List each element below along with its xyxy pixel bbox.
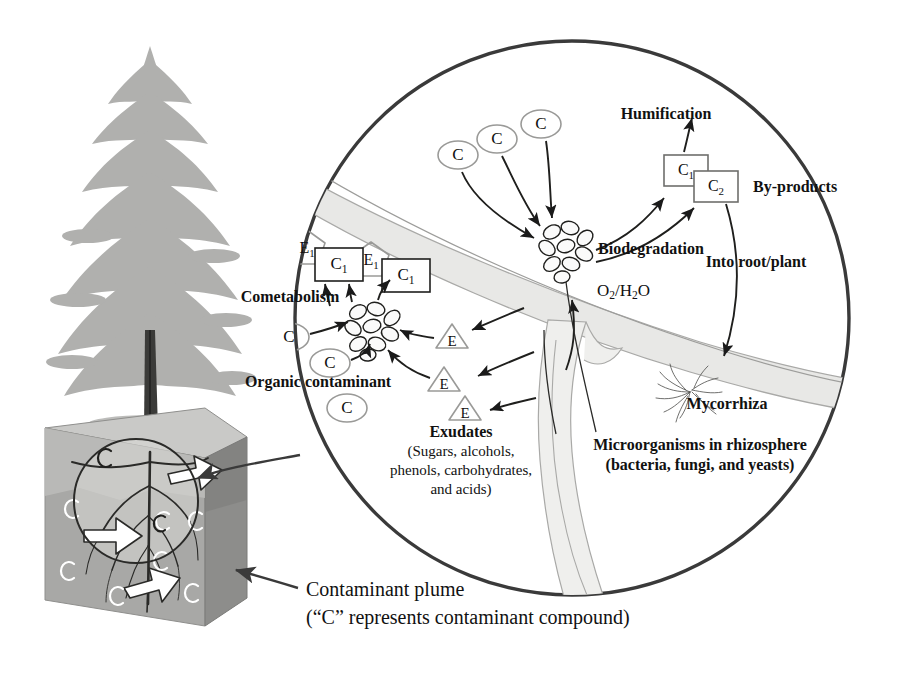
exudates-label: Exudates bbox=[429, 423, 492, 442]
figure-canvas: C C C C C C E E E E1 E1 C1 C1 C1 C2 O2/H… bbox=[0, 0, 915, 675]
mycorrhiza-label: Mycorrhiza bbox=[687, 395, 768, 414]
exudates-detail-line-2: phenols, carbohydrates, bbox=[390, 462, 532, 480]
cometabolism-label: Cometabolism bbox=[241, 288, 340, 307]
into-root-plant-label: Into root/plant bbox=[706, 253, 807, 272]
oxygen-water-label: O2/H2O bbox=[597, 281, 650, 303]
caption-line-2: (“C” represents contaminant compound) bbox=[306, 606, 630, 630]
tree-illustration bbox=[46, 46, 256, 433]
exudates-detail-line-3: and acids) bbox=[430, 481, 491, 499]
by-products-label: By-products bbox=[753, 178, 837, 197]
microorganisms-label-line-2: (bacteria, fungi, and yeasts) bbox=[606, 456, 795, 475]
diagram-artwork bbox=[0, 0, 915, 675]
organic-contaminant-label: Organic contaminant bbox=[245, 373, 391, 392]
caption-line-1: Contaminant plume bbox=[306, 578, 464, 602]
soil-block bbox=[45, 408, 247, 626]
humification-label: Humification bbox=[621, 105, 712, 124]
microorganisms-label-line-1: Microorganisms in rhizosphere bbox=[593, 436, 807, 455]
biodegradation-label: Biodegradation bbox=[598, 240, 704, 259]
exudates-detail-line-1: (Sugars, alcohols, bbox=[407, 443, 514, 461]
